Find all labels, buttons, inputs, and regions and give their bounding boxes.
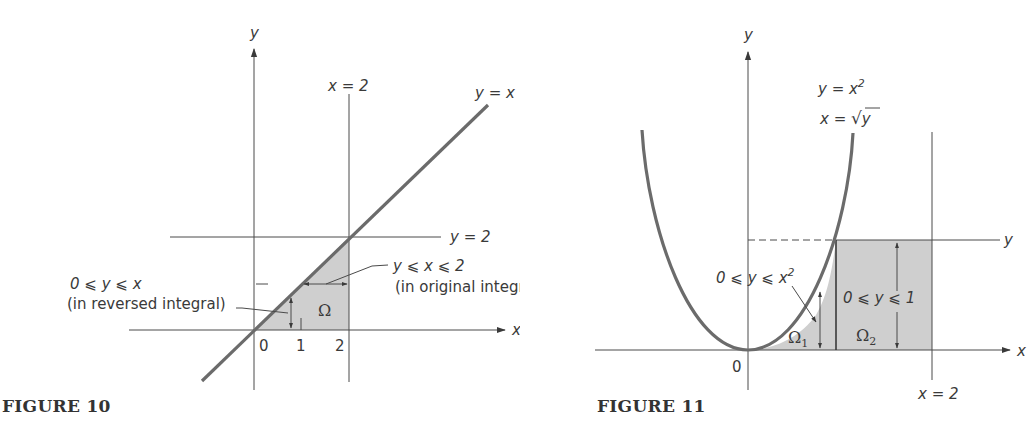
original-bounds-label: y ⩽ x ⩽ 2 (392, 257, 465, 275)
label-x-equals-2: x = 2 (917, 385, 959, 403)
figure-10: y x 0 1 2 x = 2 y = x y = 2 Ω 0 ⩽ y ⩽ x … (0, 0, 520, 426)
tick-label-0: 0 (732, 358, 742, 376)
figure-11-caption: FIGURE 11 (597, 396, 706, 416)
omega2-bounds-label: 0 ⩽ y ⩽ 1 (843, 289, 915, 307)
tick-label-1: 1 (296, 337, 306, 355)
y-axis-label: y (743, 26, 754, 44)
reversed-note-label: (in reversed integral) (67, 295, 226, 313)
original-note-label: (in original integral) (395, 278, 520, 296)
label-y-equals-x-squared: y = x2 (817, 77, 865, 98)
omega1-bounds-label: 0 ⩽ y ⩽ x2 (716, 266, 795, 287)
figure-11: y x 0 y = x2 x = √y x = 2 y 0 ⩽ y ⩽ x2 0… (520, 0, 1036, 426)
label-y-line: y (1003, 231, 1014, 249)
region-omega-label: Ω (318, 301, 331, 320)
figure-10-plot: y x 0 1 2 x = 2 y = x y = 2 Ω 0 ⩽ y ⩽ x … (0, 0, 520, 426)
y-axis-label: y (249, 24, 260, 42)
tick-label-2: 2 (335, 337, 345, 355)
label-x-equals-sqrt-y: x = √y (819, 108, 872, 128)
line-y-equals-x (202, 105, 488, 381)
x-axis-label: x (1016, 342, 1026, 360)
reversed-bounds-label: 0 ⩽ y ⩽ x (70, 275, 142, 293)
label-y-equals-x: y = x (474, 84, 515, 102)
figure-10-caption: FIGURE 10 (2, 396, 111, 416)
x-axis-label: x (511, 321, 520, 339)
label-y-equals-2: y = 2 (449, 228, 491, 246)
figure-11-plot: y x 0 y = x2 x = √y x = 2 y 0 ⩽ y ⩽ x2 0… (520, 0, 1036, 426)
tick-label-0: 0 (259, 337, 269, 355)
label-x-equals-2: x = 2 (327, 77, 369, 95)
